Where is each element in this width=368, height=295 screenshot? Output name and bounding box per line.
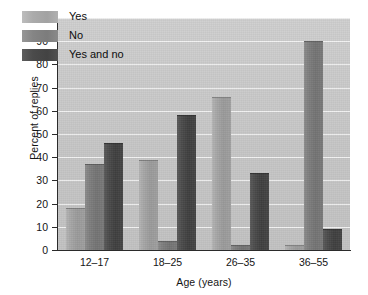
legend-label: No bbox=[69, 28, 83, 42]
bar-yes-and-no-26–35 bbox=[250, 173, 269, 250]
bar-yes-and-no-18–25 bbox=[177, 115, 196, 250]
x-axis-line bbox=[57, 250, 351, 251]
y-axis-tick-label: 20 bbox=[0, 199, 48, 209]
legend-swatch bbox=[22, 30, 58, 42]
y-axis-tick-label: 30 bbox=[0, 175, 48, 185]
legend-swatch bbox=[22, 11, 58, 23]
bar-yes-26–35 bbox=[212, 97, 231, 250]
bar-yes-36–55 bbox=[285, 245, 304, 250]
bar-no-36–55 bbox=[304, 41, 323, 250]
x-axis-tick-label: 26–35 bbox=[201, 256, 281, 268]
bar-no-26–35 bbox=[231, 245, 250, 250]
legend-label: Yes and no bbox=[69, 47, 124, 61]
x-axis-tick-label: 12–17 bbox=[55, 256, 135, 268]
legend-item: Yes and no bbox=[22, 46, 222, 65]
bar-yes-12–17 bbox=[66, 208, 85, 250]
legend-item: Yes bbox=[22, 8, 222, 27]
y-axis-tick-label: 50 bbox=[0, 129, 48, 139]
y-axis-tick-mark bbox=[52, 157, 57, 158]
x-axis-title: Age (years) bbox=[58, 276, 350, 288]
y-axis-tick-mark bbox=[52, 250, 57, 251]
y-axis-tick-mark bbox=[52, 204, 57, 205]
bar-chart-figure: Percent of replies 010203040506070809010… bbox=[0, 0, 368, 295]
x-axis-tick-label: 36–55 bbox=[274, 256, 354, 268]
legend: YesNoYes and no bbox=[22, 8, 222, 65]
legend-label: Yes bbox=[69, 9, 87, 23]
y-axis-tick-mark bbox=[52, 111, 57, 112]
x-axis-tick-label: 18–25 bbox=[128, 256, 208, 268]
bar-yes-and-no-12–17 bbox=[104, 143, 123, 250]
y-axis-tick-label: 40 bbox=[0, 152, 48, 162]
bar-no-18–25 bbox=[158, 241, 177, 250]
bar-yes-18–25 bbox=[139, 160, 158, 250]
legend-swatch bbox=[22, 49, 58, 61]
y-axis-tick-mark bbox=[52, 227, 57, 228]
y-axis-tick-label: 10 bbox=[0, 222, 48, 232]
bar-no-12–17 bbox=[85, 164, 104, 250]
y-axis-tick-mark bbox=[52, 134, 57, 135]
y-axis-tick-mark bbox=[52, 180, 57, 181]
y-axis-tick-label: 70 bbox=[0, 83, 48, 93]
y-axis-tick-label: 60 bbox=[0, 106, 48, 116]
y-axis-tick-label: 0 bbox=[0, 245, 48, 255]
bar-yes-and-no-36–55 bbox=[323, 229, 342, 250]
legend-item: No bbox=[22, 27, 222, 46]
y-axis-tick-mark bbox=[52, 88, 57, 89]
